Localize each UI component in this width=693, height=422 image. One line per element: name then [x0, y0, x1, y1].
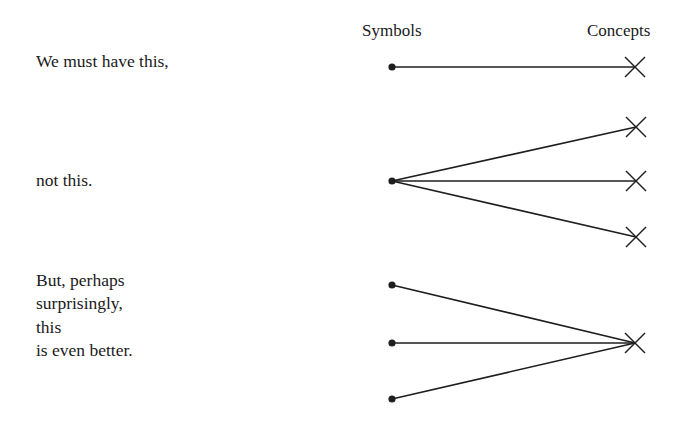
- diagram-group-one-to-many: [388, 117, 646, 247]
- concept-cross-icon: [626, 227, 646, 247]
- symbol-dot-icon: [388, 281, 395, 288]
- diagram-group-many-to-one: [388, 281, 645, 402]
- link-line: [392, 285, 635, 343]
- symbol-concept-diagram: [0, 0, 693, 422]
- symbol-dot-icon: [388, 177, 395, 184]
- link-line: [392, 343, 635, 399]
- link-line: [392, 181, 636, 237]
- symbol-dot-icon: [388, 63, 395, 70]
- concept-cross-icon: [626, 117, 646, 137]
- symbol-dot-icon: [388, 395, 395, 402]
- symbol-dot-icon: [388, 339, 395, 346]
- diagram-group-one-to-one: [388, 57, 645, 77]
- link-line: [392, 127, 636, 181]
